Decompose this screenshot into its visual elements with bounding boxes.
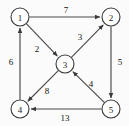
edge-weight-1-to-3: 2: [35, 44, 40, 54]
node-label-2: 2: [109, 13, 114, 23]
graph-node-4[interactable]: 4: [11, 100, 29, 118]
edge-weight-2-to-5: 5: [118, 57, 123, 67]
node-label-1: 1: [18, 13, 23, 23]
graph-edge-3-to-4: [28, 71, 59, 102]
node-label-5: 5: [109, 105, 114, 115]
node-label-3: 3: [63, 60, 68, 70]
graph-figure: 723541386 12345: [0, 0, 129, 126]
node-label-4: 4: [18, 105, 23, 115]
graph-node-1[interactable]: 1: [11, 8, 29, 26]
graph-node-2[interactable]: 2: [102, 8, 120, 26]
graph-canvas: 723541386 12345: [0, 0, 129, 126]
edge-weight-5-to-4: 13: [61, 113, 71, 123]
edge-weight-1-to-2: 7: [64, 5, 69, 15]
graph-node-5[interactable]: 5: [102, 100, 120, 118]
graph-node-3[interactable]: 3: [56, 55, 74, 73]
edge-weight-3-to-4: 8: [45, 86, 50, 96]
graph-edge-3-to-2: [72, 25, 104, 57]
edge-weight-4-to-1: 6: [9, 57, 14, 67]
edge-weight-5-to-3: 4: [89, 79, 94, 89]
edge-weight-3-to-2: 3: [78, 32, 83, 42]
graph-edge-1-to-3: [27, 24, 58, 56]
